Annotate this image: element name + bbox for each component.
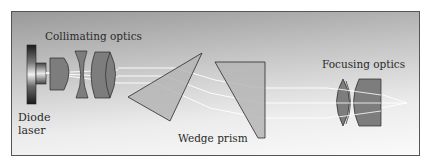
focusing-optics-icon [337, 79, 382, 126]
collimating-optics-icon [50, 51, 116, 98]
collimating-optics-label: Collimating optics [45, 31, 142, 42]
diode-laser-icon [27, 45, 46, 104]
diode-laser-label: Diode laser [18, 111, 52, 137]
focusing-optics-label: Focusing optics [322, 59, 405, 70]
wedge-prism-2-icon [215, 62, 265, 138]
wedge-prism-1-icon [128, 53, 202, 121]
diode-laser-label-line1: Diode [18, 111, 52, 124]
diode-laser-label-line2: laser [18, 124, 52, 137]
wedge-prism-label: Wedge prism [178, 133, 248, 144]
